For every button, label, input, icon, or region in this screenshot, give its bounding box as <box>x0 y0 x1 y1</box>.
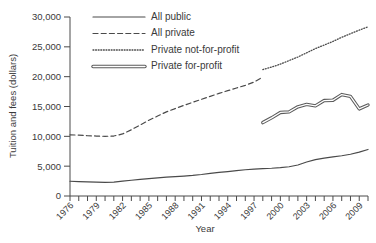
chart-legend: All publicAll privatePrivate not-for-pro… <box>93 11 240 72</box>
y-axis-ticks: 05,00010,00015,00020,00025,00030,000 <box>32 11 70 201</box>
x-tick-label: 2009 <box>343 200 364 221</box>
x-tick-label: 1982 <box>107 200 128 221</box>
series-all-public <box>70 149 368 182</box>
y-tick-label: 0 <box>56 190 61 201</box>
y-tick-label: 15,000 <box>32 101 61 112</box>
y-tick-label: 5,000 <box>37 161 61 172</box>
x-tick-label: 1994 <box>212 200 233 221</box>
x-tick-label: 1991 <box>186 200 207 221</box>
legend-item-all-private-label: All private <box>151 27 195 38</box>
series-private-for-profit-inner <box>263 95 368 123</box>
y-tick-label: 20,000 <box>32 71 61 82</box>
x-tick-label: 2006 <box>317 200 338 221</box>
x-tick-label: 1985 <box>133 200 154 221</box>
chart-svg: Tuition and fees (dollars) 05,00010,0001… <box>0 0 376 243</box>
y-axis-title-text: Tuition and fees (dollars) <box>7 54 18 158</box>
x-tick-label: 1997 <box>238 200 259 221</box>
legend-item-private-not-for-profit-label: Private not-for-profit <box>151 44 240 55</box>
y-tick-label: 10,000 <box>32 131 61 142</box>
series-private-not-for-profit <box>263 27 368 70</box>
series-all-private <box>70 77 263 136</box>
x-tick-label: 1979 <box>80 200 101 221</box>
y-tick-label: 30,000 <box>32 11 61 22</box>
x-tick-label: 1976 <box>54 200 75 221</box>
legend-item-all-public-label: All public <box>151 11 191 22</box>
y-axis-title: Tuition and fees (dollars) <box>7 54 18 158</box>
x-tick-label: 1988 <box>159 200 180 221</box>
x-tick-label: 2000 <box>265 200 286 221</box>
legend-item-private-for-profit-label: Private for-profit <box>151 60 222 71</box>
y-tick-label: 25,000 <box>32 41 61 52</box>
chart-figure: Tuition and fees (dollars) 05,00010,0001… <box>0 0 376 243</box>
x-axis-title-text: Year <box>195 223 214 234</box>
x-axis-ticks: 1976197919821985198819911994199720002003… <box>54 196 368 222</box>
x-tick-label: 2003 <box>291 200 312 221</box>
